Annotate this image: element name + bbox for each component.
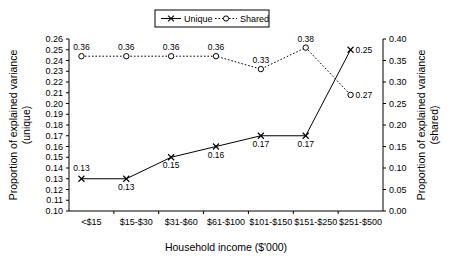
y-tick-label-left: 0.18 [45,120,63,130]
y-tick-label-right: 0.20 [389,120,407,130]
y-tick-label-left: 0.12 [45,185,63,195]
line-chart: 0.100.110.120.130.140.150.160.170.180.19… [0,0,450,265]
series-shared [79,45,354,98]
data-point-shared [213,54,218,59]
y-axis-right-ticks: 0.000.050.100.150.200.250.300.350.40 [383,34,407,216]
y-tick-label-right: 0.00 [389,206,407,216]
y-axis-right-title-sub: (shared) [428,105,440,144]
y-tick-label-left: 0.24 [45,56,63,66]
y-tick-label-left: 0.16 [45,142,63,152]
y-tick-label-right: 0.10 [389,163,407,173]
y-axis-left-title: Proportion of explained variance [7,50,19,201]
data-point-shared [79,54,84,59]
data-label-unique: 0.15 [163,160,180,170]
data-label-unique: 0.16 [208,150,225,160]
data-label-unique: 0.25 [356,45,373,55]
y-tick-label-left: 0.21 [45,88,63,98]
y-axis-left-ticks: 0.100.110.120.130.140.150.160.170.180.19… [45,34,69,216]
data-label-shared: 0.33 [253,55,270,65]
legend-marker-shared-icon [223,16,228,21]
y-axis-left-title-sub: (unique) [20,106,32,145]
data-point-shared [348,92,353,97]
data-label-unique: 0.17 [297,139,314,149]
x-tick-label: $31-$60 [165,217,198,227]
y-tick-label-left: 0.15 [45,152,63,162]
data-point-shared [168,54,173,59]
x-axis-ticks: <$15$15-$30$31-$60$61-$100$101-$150$151-… [81,211,382,227]
y-tick-label-left: 0.17 [45,131,63,141]
y-tick-label-left: 0.22 [45,77,63,87]
data-label-unique: 0.17 [253,139,270,149]
data-point-shared [303,45,308,50]
y-axis-right-title: Proportion of explained variance [415,50,427,201]
y-tick-label-right: 0.25 [389,99,407,109]
y-tick-label-left: 0.10 [45,206,63,216]
data-label-shared: 0.27 [356,90,373,100]
y-tick-label-right: 0.35 [389,56,407,66]
data-label-shared: 0.38 [297,34,314,44]
y-tick-label-right: 0.05 [389,185,407,195]
x-tick-label: $151-$250 [294,217,337,227]
legend: Unique Shared [155,10,269,27]
y-tick-label-right: 0.15 [389,142,407,152]
data-point-shared [124,54,129,59]
data-labels-unique: 0.130.130.150.160.170.170.25 [73,45,372,192]
y-tick-label-left: 0.11 [46,195,63,205]
y-tick-label-right: 0.30 [389,77,407,87]
data-point-shared [258,66,263,71]
x-tick-label: $101-$150 [249,217,292,227]
y-tick-label-left: 0.13 [45,174,63,184]
x-tick-label: $251-$500 [339,217,382,227]
data-label-shared: 0.36 [163,42,180,52]
data-label-shared: 0.36 [73,42,90,52]
chart-container: 0.100.110.120.130.140.150.160.170.180.19… [0,0,450,265]
data-labels-shared: 0.360.360.360.360.330.380.27 [73,34,372,100]
data-label-shared: 0.36 [118,42,135,52]
data-label-shared: 0.36 [208,42,225,52]
plot-axes [69,39,383,211]
y-tick-label-left: 0.25 [45,45,63,55]
x-tick-label: $61-$100 [207,217,245,227]
y-tick-label-left: 0.20 [45,99,63,109]
x-tick-label: <$15 [81,217,101,227]
data-label-unique: 0.13 [73,163,90,173]
series-unique [78,47,353,182]
x-axis-title: Household income ($'000) [165,241,287,253]
y-tick-label-left: 0.26 [45,34,63,44]
y-tick-label-left: 0.19 [45,109,63,119]
data-label-unique: 0.13 [118,182,135,192]
y-tick-label-left: 0.23 [45,66,63,76]
legend-label-unique: Unique [184,14,213,24]
legend-label-shared: Shared [240,14,269,24]
y-tick-label-left: 0.14 [45,163,63,173]
y-tick-label-right: 0.40 [389,34,407,44]
x-tick-label: $15-$30 [120,217,153,227]
